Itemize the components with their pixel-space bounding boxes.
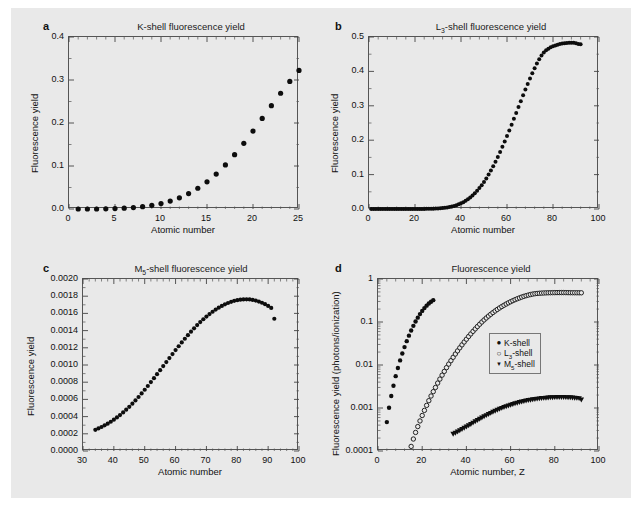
panel-d-title: Fluorescence yield [391, 263, 591, 274]
x-tick-label: 20 [409, 213, 419, 223]
x-tick-label: 5 [111, 213, 116, 223]
y-tick-label: 0.0018 [38, 290, 78, 300]
x-tick-label: 10 [155, 213, 165, 223]
y-tick-label: 0.0000 [38, 445, 78, 455]
x-tick-label: 80 [231, 455, 241, 465]
panel-b: b L3-shell fluorescence yield Fluorescen… [321, 8, 631, 253]
panel-d-xlabel: Atomic number, Z [377, 466, 598, 477]
y-tick-label: 0.0004 [38, 411, 78, 421]
x-tick-label: 100 [590, 455, 605, 465]
x-tick-label: 20 [247, 213, 257, 223]
panel-c-title: M5-shell fluorescence yield [91, 263, 291, 276]
x-tick-label: 50 [139, 455, 149, 465]
legend: ●K-shell○L3-shell▼M5-shell [489, 333, 541, 374]
panel-c-ylabel: Fluorescence yield [25, 337, 36, 416]
x-tick-label: 0 [65, 213, 70, 223]
x-tick-label: 100 [590, 213, 605, 223]
y-tick-label: 0.5 [324, 31, 364, 41]
legend-label: M5-shell [504, 359, 535, 371]
y-tick-label: 0.2 [24, 117, 64, 127]
x-tick-label: 60 [501, 213, 511, 223]
x-tick-label: 100 [290, 455, 305, 465]
panel-a-title: K-shell fluorescence yield [91, 21, 291, 32]
legend-label-suffix: -shell [515, 359, 535, 369]
y-tick-label: 0.0001 [333, 445, 373, 455]
panel-a-xlabel: Atomic number [68, 224, 298, 235]
panel-a: a K-shell fluorescence yield Fluorescenc… [11, 8, 321, 253]
panel-b-title-suffix: -shell fluorescence yield [445, 21, 546, 32]
y-tick-label: 0.001 [333, 402, 373, 412]
panel-c-svg [83, 279, 299, 451]
legend-label-suffix: -shell [512, 348, 532, 358]
y-tick-label: 0.0016 [38, 307, 78, 317]
y-tick-label: 0.0014 [38, 325, 78, 335]
x-tick-label: 40 [108, 455, 118, 465]
panel-c-plot-area [82, 278, 298, 450]
filled-circle-icon: ● [494, 337, 504, 348]
x-tick-label: 40 [455, 213, 465, 223]
filled-triangle-icon: ▼ [494, 359, 504, 370]
y-tick-label: 0.1 [24, 160, 64, 170]
y-tick-label: 0.1 [333, 316, 373, 326]
y-tick-label: 0.0008 [38, 376, 78, 386]
figure-canvas: a K-shell fluorescence yield Fluorescenc… [11, 8, 631, 498]
panel-b-plot-area [368, 36, 598, 208]
panel-b-title: L3-shell fluorescence yield [381, 21, 601, 34]
y-tick-label: 0.0006 [38, 393, 78, 403]
x-tick-label: 20 [416, 455, 426, 465]
panel-a-plot-area [68, 36, 298, 208]
x-tick-label: 0 [374, 455, 379, 465]
legend-item-l-shell: ○L3-shell [494, 348, 535, 359]
y-tick-label: 0.3 [324, 100, 364, 110]
panel-a-svg [69, 37, 299, 209]
y-tick-label: 0.4 [24, 31, 64, 41]
y-tick-label: 0.0010 [38, 359, 78, 369]
open-circle-icon: ○ [494, 348, 504, 359]
legend-label-suffix: -shell [510, 338, 530, 348]
panel-b-svg [369, 37, 599, 209]
x-tick-label: 30 [77, 455, 87, 465]
panel-c: c M5-shell fluorescence yield Fluorescen… [11, 253, 321, 498]
legend-item-k-shell: ●K-shell [494, 337, 535, 348]
y-tick-label: 0.0 [24, 203, 64, 213]
y-tick-label: 0.0020 [38, 273, 78, 283]
x-tick-label: 80 [549, 455, 559, 465]
x-tick-label: 0 [365, 213, 370, 223]
y-tick-label: 0.4 [324, 65, 364, 75]
x-tick-label: 60 [170, 455, 180, 465]
legend-label: L3-shell [504, 348, 532, 360]
y-tick-label: 0.3 [24, 74, 64, 84]
y-tick-label: 0.0012 [38, 342, 78, 352]
legend-label: K-shell [504, 338, 530, 348]
panel-d: d Fluorescence yield Fluorescence yield … [321, 253, 631, 498]
y-tick-label: 0.0002 [38, 428, 78, 438]
y-tick-label: 0.1 [324, 169, 364, 179]
legend-item-m-shell: ▼M5-shell [494, 359, 535, 370]
panel-b-xlabel: Atomic number [368, 224, 598, 235]
x-tick-label: 60 [505, 455, 515, 465]
panel-d-plot-area [377, 278, 598, 450]
x-tick-label: 25 [293, 213, 303, 223]
y-tick-label: 1 [333, 273, 373, 283]
x-tick-label: 15 [201, 213, 211, 223]
y-tick-label: 0.0 [324, 203, 364, 213]
x-tick-label: 90 [262, 455, 272, 465]
x-tick-label: 80 [547, 213, 557, 223]
panel-c-title-suffix: -shell fluorescence yield [146, 263, 247, 274]
x-tick-label: 70 [200, 455, 210, 465]
y-tick-label: 0.01 [333, 359, 373, 369]
y-tick-label: 0.2 [324, 134, 364, 144]
x-tick-label: 40 [460, 455, 470, 465]
panel-c-xlabel: Atomic number [82, 466, 298, 477]
